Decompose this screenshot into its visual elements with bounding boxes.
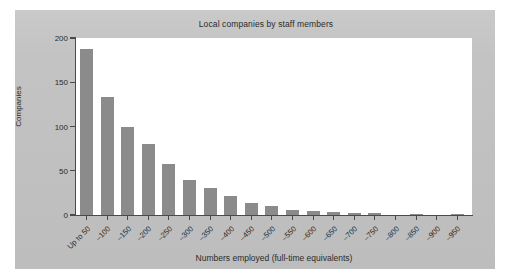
x-axis-tick-labels: Up to 50–100–150–200–250–300–350–400–450…: [0, 0, 506, 279]
chart-figure: Local companies by staff members 0501001…: [0, 0, 506, 279]
x-axis-title: Numbers employed (full-time equivalents): [76, 253, 472, 263]
